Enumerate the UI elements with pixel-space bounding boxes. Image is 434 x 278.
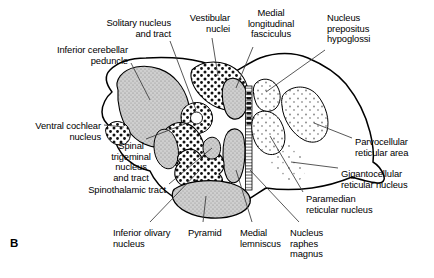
medial-longitudinal-fasciculus-region (222, 78, 247, 119)
label-medial-lemniscus: Medial lemniscus (240, 228, 281, 249)
label-solitary-nucleus-and-tract: Solitary nucleus and tract (106, 18, 171, 39)
label-paramedian-reticular-nucleus: Paramedian reticular nucleus (306, 194, 373, 215)
label-ventral-cochlear-nucleus: Ventral cochlear nucleus (35, 121, 101, 142)
label-inferior-olivary-nucleus: Inferior olivary nucleus (113, 228, 170, 249)
medial-lemniscus-region (223, 129, 245, 183)
label-spinal-trigeminal-nucleus-and-tract: Spinal trigeminal nucleus and tract (71, 141, 191, 183)
label-nucleus-raphes-magnus: Nucleus raphes magnus (290, 228, 323, 260)
figure-panel: Solitary nucleus and tractVestibular nuc… (0, 0, 434, 278)
label-nucleus-prepositus-hypoglossi: Nucleus prepositus hypoglossi (327, 13, 370, 45)
label-gigantocellular-reticular-nucleus: Gigantocellular reticular nucleus (341, 169, 408, 190)
label-medial-longitudinal-fasciculus: Medial longitudinal fasciculus (211, 8, 331, 40)
label-parvocellular-reticular-area: Parvocellular reticular area (355, 137, 408, 158)
nucleus-raphes-magnus-region (246, 86, 253, 190)
label-pyramid: Pyramid (188, 228, 222, 239)
nucleus-prepositus-hypoglossi-region (253, 79, 280, 111)
label-inferior-cerebellar-peduncle: Inferior cerebellar peduncle (57, 45, 128, 66)
label-spinothalamic-tract: Spinothalamic tract (88, 185, 166, 196)
panel-letter: B (10, 237, 18, 249)
